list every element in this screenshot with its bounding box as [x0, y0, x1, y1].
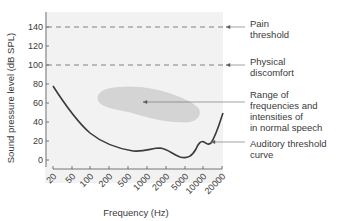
svg-text:curve: curve	[250, 149, 273, 160]
svg-text:threshold: threshold	[250, 29, 289, 40]
svg-text:intensities of: intensities of	[250, 111, 303, 122]
ann-discomfort: Physical	[250, 56, 285, 67]
y-tick-labels: 0 20 40 60 80 100 120 140	[28, 22, 43, 165]
svg-text:60: 60	[33, 98, 43, 108]
svg-text:120: 120	[28, 41, 43, 51]
svg-text:100: 100	[28, 60, 43, 70]
svg-text:20: 20	[33, 136, 43, 146]
ann-threshold: Auditory threshold	[250, 138, 327, 149]
chart: 0 20 40 60 80 100 120 140 20 50 100 200 …	[0, 0, 339, 221]
ann-pain: Pain	[250, 18, 269, 29]
svg-text:in normal speech: in normal speech	[250, 122, 322, 133]
y-axis-label: Sound pressure level (dB SPL)	[5, 33, 16, 163]
svg-text:80: 80	[33, 79, 43, 89]
svg-text:discomfort: discomfort	[250, 67, 294, 78]
svg-text:frequencies and: frequencies and	[250, 100, 318, 111]
svg-text:0: 0	[38, 155, 43, 165]
svg-text:140: 140	[28, 22, 43, 32]
svg-text:40: 40	[33, 117, 43, 127]
x-axis-label: Frequency (Hz)	[103, 207, 168, 218]
annotations: Pain threshold Physical discomfort Range…	[250, 18, 327, 160]
ann-speech: Range of	[250, 89, 289, 100]
